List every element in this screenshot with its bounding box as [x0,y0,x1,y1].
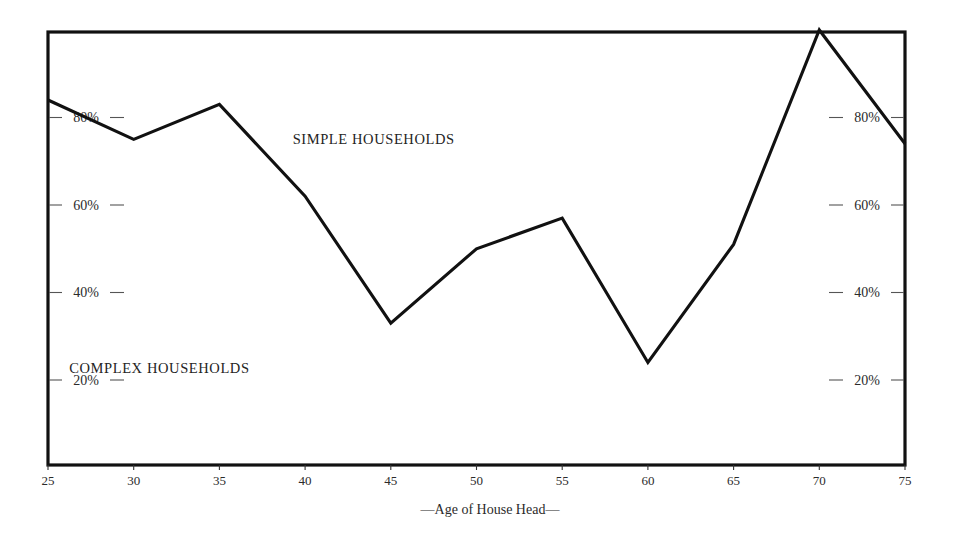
x-tick-label: 70 [813,473,826,488]
y-tick-label-left: 60% [73,198,99,213]
x-tick-label: 35 [213,473,226,488]
annotation-complex-households: COMPLEX HOUSEHOLDS [69,360,249,376]
y-tick-label-right: 80% [854,110,880,125]
x-tick-label: 75 [899,473,912,488]
x-tick-label: 55 [556,473,569,488]
x-tick-label: 40 [299,473,312,488]
line-chart: 20%40%60%80% 20%40%60%80% 25303540455055… [0,0,955,549]
y-tick-label-right: 40% [854,285,880,300]
x-axis-title: —Age of House Head— [420,502,561,517]
x-tick-label: 45 [384,473,397,488]
x-tick-label: 65 [727,473,740,488]
y-tick-label-left: 40% [73,285,99,300]
x-tick-label: 50 [470,473,483,488]
y-tick-label-right: 60% [854,198,880,213]
y-tick-label-right: 20% [854,373,880,388]
chart-figure: 20%40%60%80% 20%40%60%80% 25303540455055… [0,0,955,549]
x-tick-label: 60 [641,473,654,488]
chart-background [0,0,955,549]
annotation-simple-households: SIMPLE HOUSEHOLDS [293,131,455,147]
x-tick-label: 30 [127,473,140,488]
x-tick-label: 25 [42,473,55,488]
